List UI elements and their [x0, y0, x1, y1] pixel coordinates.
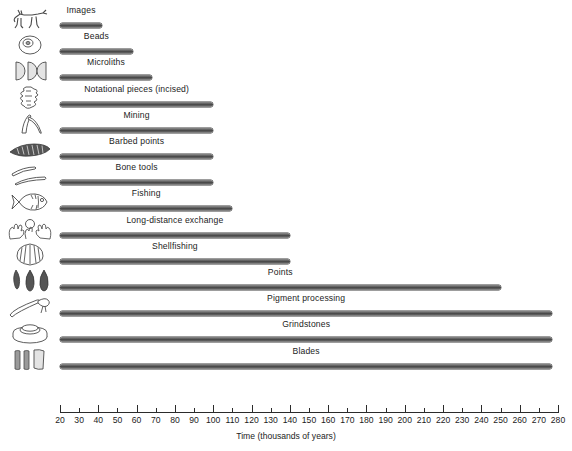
x-axis-tick: [290, 405, 291, 413]
x-axis-tick: [175, 405, 176, 413]
bar-track: Images: [0, 6, 572, 32]
bar-label: Bone tools: [116, 162, 158, 172]
x-axis-tick: [98, 405, 99, 413]
bar-track: Long-distance exchange: [0, 216, 572, 242]
bar-row: Mining: [0, 111, 572, 137]
x-axis-tick: [481, 405, 482, 413]
bar: [60, 75, 152, 80]
x-axis: 2030405060708090100110120130140150160170…: [0, 404, 572, 451]
x-axis-tick: [252, 405, 253, 413]
bar: [60, 180, 213, 185]
x-axis-tick: [424, 408, 425, 413]
x-axis-tick-label: 30: [74, 415, 84, 425]
x-axis-tick-label: 70: [151, 415, 161, 425]
x-axis-tick: [156, 408, 157, 413]
x-axis-tick: [539, 408, 540, 413]
bar-label: Barbed points: [109, 136, 164, 146]
x-axis-tick-label: 50: [113, 415, 123, 425]
bar: [60, 285, 501, 290]
x-axis-tick-label: 250: [493, 415, 507, 425]
x-axis-title: Time (thousands of years): [0, 431, 572, 441]
x-axis-tick: [462, 408, 463, 413]
bar: [60, 337, 552, 342]
bar-row: Microliths: [0, 58, 572, 84]
bar: [60, 233, 290, 238]
bar-row: Barbed points: [0, 137, 572, 163]
bar-track: Notational pieces (incised): [0, 85, 572, 111]
bar-row: Images: [0, 6, 572, 32]
bar-row: Points: [0, 268, 572, 294]
bar-label: Beads: [84, 31, 109, 41]
bar-label: Points: [268, 267, 293, 277]
x-axis-tick-label: 20: [55, 415, 65, 425]
bar-row: Grindstones: [0, 320, 572, 346]
bar: [60, 128, 213, 133]
x-axis-tick-label: 80: [170, 415, 180, 425]
bar-row: Shellfishing: [0, 242, 572, 268]
x-axis-tick: [405, 405, 406, 413]
x-axis-tick: [501, 408, 502, 413]
bar-label: Images: [67, 5, 96, 15]
x-axis-tick-label: 230: [455, 415, 469, 425]
x-axis-tick-label: 240: [474, 415, 488, 425]
bar: [60, 364, 552, 369]
x-axis-tick-label: 280: [551, 415, 565, 425]
bar-track: Barbed points: [0, 137, 572, 163]
x-axis-tick-label: 170: [340, 415, 354, 425]
x-axis-tick: [347, 408, 348, 413]
bar-row: Notational pieces (incised): [0, 85, 572, 111]
x-axis-tick: [232, 408, 233, 413]
x-axis-tick-label: 270: [532, 415, 546, 425]
bar-track: Blades: [0, 347, 572, 373]
bar-track: Fishing: [0, 189, 572, 215]
x-axis-tick: [213, 405, 214, 413]
x-axis-tick-label: 120: [244, 415, 258, 425]
x-axis-tick: [443, 405, 444, 413]
bar-row: Fishing: [0, 189, 572, 215]
bar-label: Grindstones: [282, 319, 330, 329]
x-axis-tick-label: 160: [321, 415, 335, 425]
bar-track: Grindstones: [0, 320, 572, 346]
bar-track: Microliths: [0, 58, 572, 84]
bar-row: Blades: [0, 347, 572, 373]
bar-label: Notational pieces (incised): [84, 84, 189, 94]
x-axis-tick: [60, 405, 61, 413]
bar-label: Fishing: [132, 188, 161, 198]
bar: [60, 23, 102, 28]
bar-track: Mining: [0, 111, 572, 137]
chart-canvas: ImagesBeadsMicrolithsNotational pieces (…: [0, 0, 572, 451]
x-axis-tick: [194, 408, 195, 413]
x-axis-tick: [271, 408, 272, 413]
bar-track: Bone tools: [0, 163, 572, 189]
x-axis-tick: [79, 408, 80, 413]
x-axis-tick-label: 100: [206, 415, 220, 425]
x-axis-tick: [309, 408, 310, 413]
x-axis-tick: [386, 408, 387, 413]
x-axis-tick: [558, 405, 559, 413]
bar-track: Points: [0, 268, 572, 294]
x-axis-tick-label: 200: [398, 415, 412, 425]
bar: [60, 154, 213, 159]
bar-label: Shellfishing: [152, 241, 198, 251]
x-axis-tick-label: 150: [302, 415, 316, 425]
x-axis-tick-label: 90: [189, 415, 199, 425]
x-axis-tick-label: 60: [132, 415, 142, 425]
x-axis-tick-label: 40: [94, 415, 104, 425]
x-axis-tick: [117, 408, 118, 413]
bar-label: Microliths: [87, 57, 125, 67]
x-axis-tick-label: 180: [359, 415, 373, 425]
x-axis-tick-label: 260: [513, 415, 527, 425]
bar: [60, 206, 232, 211]
x-axis-tick: [520, 405, 521, 413]
bar: [60, 311, 552, 316]
bar: [60, 102, 213, 107]
x-axis-tick-label: 110: [226, 415, 240, 425]
bar-row: Pigment processing: [0, 294, 572, 320]
bar-row: Beads: [0, 32, 572, 58]
bar-label: Pigment processing: [267, 293, 345, 303]
bar: [60, 259, 290, 264]
bar-label: Blades: [293, 346, 320, 356]
x-axis-tick-label: 210: [417, 415, 431, 425]
x-axis-tick-label: 220: [436, 415, 450, 425]
bar: [60, 49, 133, 54]
